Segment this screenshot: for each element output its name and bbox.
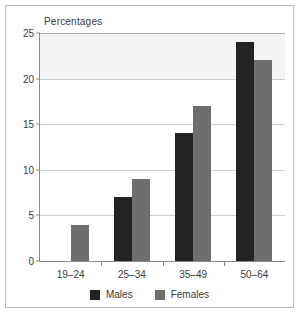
bar-males [175, 133, 193, 261]
x-axis-separator-tick [101, 261, 102, 266]
legend-label: Females [171, 289, 209, 300]
y-axis-tick [36, 261, 40, 262]
bar-females [254, 60, 272, 261]
bar-males [236, 42, 254, 261]
bar-males [114, 197, 132, 261]
x-axis-separator-tick [163, 261, 164, 266]
x-axis-label: 35–49 [179, 269, 207, 280]
male-swatch [90, 290, 100, 300]
x-axis-label: 50–64 [240, 269, 268, 280]
plot-area: 051015202519–2425–3435–4950–64 [39, 33, 285, 262]
x-axis-label: 25–34 [118, 269, 146, 280]
y-axis-tick-label: 0 [28, 256, 34, 267]
y-axis-tick [36, 124, 40, 125]
gridline [40, 33, 285, 34]
y-axis-tick [36, 215, 40, 216]
legend-item-females[interactable]: Females [155, 289, 209, 300]
x-axis-separator-tick [224, 261, 225, 266]
legend-label: Males [106, 289, 133, 300]
chart-title: Percentages [44, 16, 102, 27]
y-axis-tick-label: 15 [23, 119, 34, 130]
y-axis-tick [36, 78, 40, 79]
chart-frame: Percentages 051015202519–2425–3435–4950–… [5, 5, 294, 308]
y-axis-tick-label: 5 [28, 210, 34, 221]
y-axis-tick [36, 169, 40, 170]
y-axis-tick-label: 10 [23, 164, 34, 175]
y-axis-tick [36, 33, 40, 34]
legend-item-males[interactable]: Males [90, 289, 133, 300]
chart-legend: MalesFemales [6, 289, 293, 300]
bar-females [193, 106, 211, 261]
y-axis-tick-label: 20 [23, 73, 34, 84]
bar-females [71, 225, 89, 261]
bar-females [132, 179, 150, 261]
y-axis-tick-label: 25 [23, 28, 34, 39]
female-swatch [155, 290, 165, 300]
x-axis-label: 19–24 [57, 269, 85, 280]
